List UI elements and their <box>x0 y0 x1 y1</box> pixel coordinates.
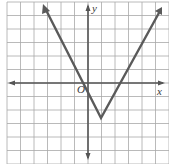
y-axis-down-arrow-icon <box>86 153 91 160</box>
origin-label: O <box>77 84 85 95</box>
v-graph <box>42 4 162 118</box>
left-branch-arrow-icon <box>42 4 50 14</box>
x-axis-left-arrow-icon <box>8 81 15 86</box>
coordinate-plane <box>0 0 169 164</box>
x-axis <box>8 81 165 86</box>
y-axis-up-arrow-icon <box>86 4 91 11</box>
x-axis-label: x <box>157 86 162 97</box>
y-axis-label: y <box>92 3 97 14</box>
